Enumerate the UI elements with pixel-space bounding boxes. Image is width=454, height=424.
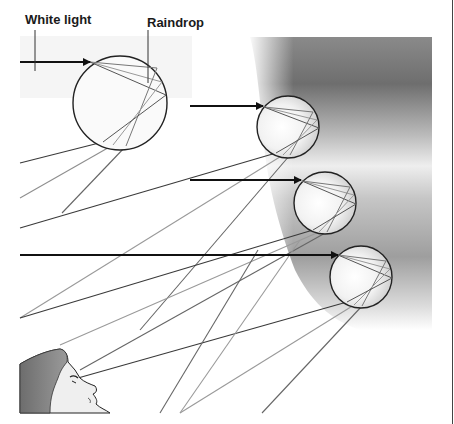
- rainbow-diagram: [0, 0, 454, 424]
- raindrop-4: [330, 246, 392, 308]
- raindrop-3: [294, 172, 356, 234]
- observer-face: [20, 349, 110, 413]
- raindrop-1: [73, 56, 167, 150]
- raindrop-2: [257, 96, 319, 158]
- white-light-label: White light: [25, 12, 91, 27]
- raindrop-label: Raindrop: [147, 15, 204, 30]
